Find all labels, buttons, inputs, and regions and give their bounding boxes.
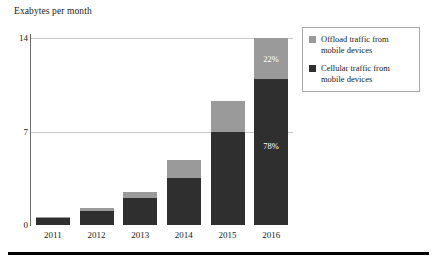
y-tick-label-0: 0 (8, 220, 28, 230)
bar-segment-cellular-2015[interactable] (211, 132, 245, 226)
chart-legend: Offload traffic from mobile devices Cell… (302, 27, 420, 92)
bar-group-2016[interactable]: 22%78% (254, 38, 288, 225)
legend-swatch-cellular-icon (309, 65, 316, 72)
y-tick-label-7: 7 (8, 127, 28, 137)
bar-segment-offload-2016[interactable]: 22% (254, 38, 288, 79)
bar-segment-cellular-2016[interactable]: 78% (254, 79, 288, 225)
bar-group-2011[interactable] (36, 217, 70, 225)
x-tick-label-2011: 2011 (31, 230, 75, 240)
bar-group-2013[interactable] (123, 192, 157, 225)
x-tick-label-2016: 2016 (249, 230, 293, 240)
bar-segment-cellular-2013[interactable] (123, 198, 157, 225)
legend-item-offload[interactable]: Offload traffic from mobile devices (309, 34, 412, 56)
bar-label-offload-pct: 22% (254, 54, 288, 64)
bar-segment-cellular-2012[interactable] (80, 211, 114, 225)
x-tick-label-2015: 2015 (206, 230, 250, 240)
legend-swatch-offload-icon (309, 36, 316, 43)
legend-label-cellular: Cellular traffic from mobile devices (321, 63, 412, 85)
chart-title: Exabytes per month (14, 6, 92, 16)
bar-segment-cellular-2014[interactable] (167, 178, 201, 225)
x-tick-label-2013: 2013 (118, 230, 162, 240)
bar-group-2015[interactable] (211, 101, 245, 225)
bar-segment-offload-2014[interactable] (167, 160, 201, 179)
legend-item-cellular[interactable]: Cellular traffic from mobile devices (309, 63, 412, 85)
y-tick-label-14: 14 (8, 33, 28, 43)
bar-group-2014[interactable] (167, 160, 201, 225)
legend-label-offload: Offload traffic from mobile devices (321, 34, 412, 56)
x-tick-label-2012: 2012 (75, 230, 119, 240)
bar-series-group: 22%78% (31, 38, 293, 225)
bar-segment-cellular-2011[interactable] (36, 218, 70, 225)
chart-container: Exabytes per month 1470 22%78% 201120122… (0, 0, 437, 269)
bottom-rule-divider (8, 252, 429, 255)
bar-group-2012[interactable] (80, 208, 114, 225)
bar-label-cellular-pct: 78% (254, 141, 288, 151)
x-tick-label-2014: 2014 (162, 230, 206, 240)
bar-segment-offload-2015[interactable] (211, 101, 245, 132)
